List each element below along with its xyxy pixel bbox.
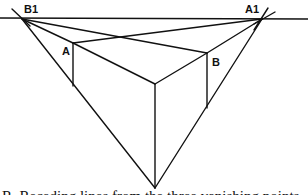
a1-to-b-line	[207, 19, 262, 53]
label-b: B	[212, 56, 220, 68]
diagram-canvas: B1 A1 A B R. Receding lines from the thr…	[0, 0, 308, 195]
a1-to-vp3-line	[155, 19, 262, 188]
perspective-diagram: B1 A1 A B R. Receding lines from the thr…	[0, 0, 308, 195]
b1-to-a-line	[22, 19, 73, 43]
b1-to-vp3-line	[22, 19, 155, 188]
a1-to-a-line	[73, 19, 262, 43]
b1-to-b-line	[22, 19, 207, 53]
caption-partial: R. Receding lines from the three vanishi…	[2, 188, 300, 195]
label-a1: A1	[245, 3, 259, 15]
label-b1: B1	[24, 3, 38, 15]
edge-b-front	[155, 53, 207, 84]
label-a: A	[62, 45, 70, 57]
edge-a-front	[73, 43, 155, 84]
